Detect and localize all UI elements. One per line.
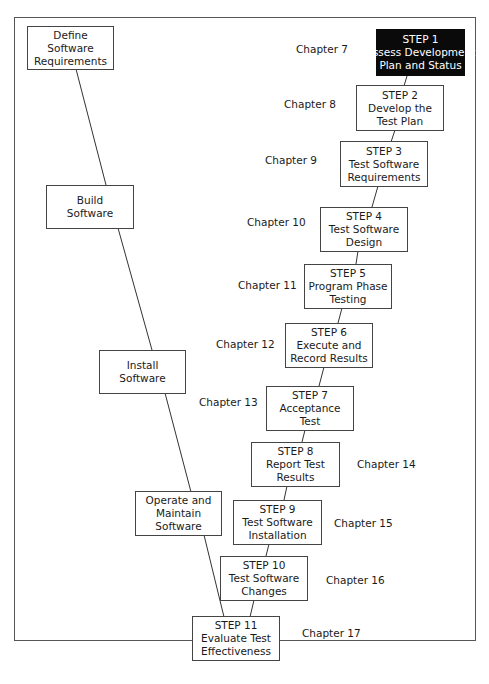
step-number: STEP 1 [402, 33, 438, 46]
step-2-box: STEP 2 Develop the Test Plan [356, 85, 444, 131]
step-text: Requirements [348, 171, 421, 184]
step-8-box: STEP 8 Report Test Results [251, 442, 340, 487]
step-5-box: STEP 5 Program Phase Testing [304, 264, 392, 309]
connector-5-6 [338, 308, 342, 323]
box-text: Operate and [146, 494, 212, 507]
chapter-label: Chapter 13 [199, 396, 258, 408]
chapter-label: Chapter 17 [302, 627, 361, 639]
connector-10-11 [250, 600, 254, 617]
step-text: Assess Development [366, 46, 476, 59]
step-text: Plan and Status [379, 59, 461, 72]
step-3-box: STEP 3 Test Software Requirements [340, 141, 428, 187]
connector-4-5 [356, 251, 358, 264]
step-6-box: STEP 6 Execute and Record Results [285, 323, 373, 368]
chapter-label: Chapter 14 [357, 458, 416, 470]
box-text: Build [77, 194, 103, 207]
step-text: Develop the [368, 102, 432, 115]
step-text: Test [300, 415, 321, 428]
operate-maintain-box: Operate and Maintain Software [135, 491, 222, 536]
step-text: Design [346, 236, 382, 249]
define-requirements-box: Define Software Requirements [27, 26, 114, 70]
box-text: Software [67, 207, 113, 220]
connector-define-build [76, 69, 106, 185]
box-text: Install [127, 359, 159, 372]
box-text: Define [53, 29, 87, 42]
step-text: Test Software [349, 158, 419, 171]
step-7-box: STEP 7 Acceptance Test [266, 386, 354, 431]
step-number: STEP 6 [311, 326, 347, 339]
step-text: Test Software [229, 572, 299, 585]
connector-7-8 [302, 430, 305, 442]
step-11-box: STEP 11 Evaluate Test Effectiveness [192, 616, 280, 661]
connector-9-10 [266, 544, 269, 556]
step-text: Report Test [266, 458, 325, 471]
step-number: STEP 3 [366, 145, 402, 158]
chapter-label: Chapter 16 [326, 574, 385, 586]
chapter-label: Chapter 11 [238, 279, 297, 291]
step-number: STEP 9 [259, 503, 295, 516]
install-software-box: Install Software [99, 350, 186, 394]
step-text: Installation [248, 529, 306, 542]
step-9-box: STEP 9 Test Software Installation [233, 500, 322, 545]
connector-3-4 [372, 186, 378, 207]
step-number: STEP 5 [330, 267, 366, 280]
chapter-label: Chapter 10 [247, 216, 306, 228]
step-number: STEP 2 [382, 89, 418, 102]
box-text: Software [155, 520, 201, 533]
step-10-box: STEP 10 Test Software Changes [220, 556, 308, 601]
chapter-label: Chapter 9 [265, 154, 317, 166]
chapter-label: Chapter 8 [284, 98, 336, 110]
connector-8-9 [284, 486, 287, 500]
step-number: STEP 7 [292, 389, 328, 402]
box-text: Software [119, 372, 165, 385]
step-text: Program Phase [309, 280, 388, 293]
step-number: STEP 4 [346, 210, 382, 223]
chapter-label: Chapter 15 [334, 517, 393, 529]
step-text: Testing [330, 293, 367, 306]
step-text: Results [277, 471, 315, 484]
step-number: STEP 8 [277, 445, 313, 458]
step-number: STEP 10 [243, 559, 286, 572]
step-text: Changes [241, 585, 287, 598]
connector-install-operate [165, 393, 191, 492]
step-number: STEP 11 [215, 619, 258, 632]
step-4-box: STEP 4 Test Software Design [320, 207, 408, 252]
connector-build-install [118, 228, 152, 350]
chapter-label: Chapter 12 [216, 338, 275, 350]
box-text: Requirements [34, 55, 107, 68]
step-text: Execute and [296, 339, 361, 352]
chapter-label: Chapter 7 [296, 43, 348, 55]
build-software-box: Build Software [46, 185, 134, 229]
box-text: Maintain [156, 507, 201, 520]
step-text: Test Software [329, 223, 399, 236]
step-text: Test Software [242, 516, 312, 529]
step-text: Evaluate Test [201, 632, 271, 645]
connector-6-7 [319, 367, 324, 386]
step-text: Record Results [290, 352, 368, 365]
step-1-box: STEP 1 Assess Development Plan and Statu… [376, 29, 465, 76]
box-text: Software [47, 42, 93, 55]
step-text: Effectiveness [201, 645, 271, 658]
step-text: Test Plan [377, 115, 423, 128]
step-text: Acceptance [279, 402, 340, 415]
